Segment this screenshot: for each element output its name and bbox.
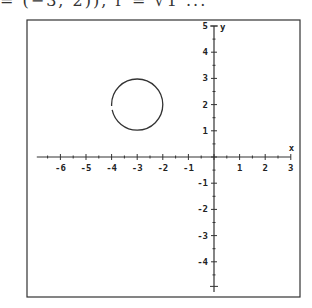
tick-labels: -6-5-4-3-2-1123-4-3-2-112345	[55, 21, 294, 267]
svg-text:-3: -3	[197, 231, 208, 241]
svg-text:-2: -2	[197, 204, 208, 214]
svg-text:1: 1	[203, 126, 208, 136]
svg-text:-1: -1	[197, 178, 208, 188]
svg-text:5: 5	[203, 21, 208, 31]
svg-text:3: 3	[288, 163, 293, 173]
svg-text:-1: -1	[183, 163, 194, 173]
x-axis-label: x	[289, 143, 295, 153]
circle-curve	[112, 79, 163, 130]
svg-text:3: 3	[203, 73, 208, 83]
plot-frame	[27, 20, 300, 297]
svg-text:-4: -4	[197, 257, 208, 267]
svg-text:2: 2	[203, 100, 208, 110]
axes	[37, 26, 291, 292]
svg-text:1: 1	[237, 163, 242, 173]
svg-text:-3: -3	[132, 163, 143, 173]
svg-text:-2: -2	[157, 163, 168, 173]
svg-text:-6: -6	[55, 163, 66, 173]
svg-text:-5: -5	[81, 163, 92, 173]
svg-text:2: 2	[262, 163, 267, 173]
svg-text:-4: -4	[106, 163, 117, 173]
graph-plot: -6-5-4-3-2-1123-4-3-2-112345 x y	[0, 0, 312, 308]
y-axis-label: y	[220, 22, 226, 32]
svg-text:4: 4	[203, 47, 209, 57]
